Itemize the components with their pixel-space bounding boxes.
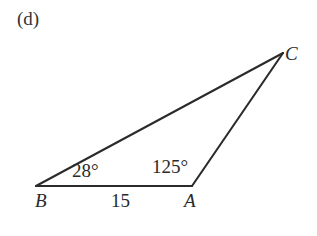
- angle-a-measure-label: 125°: [152, 157, 188, 176]
- angle-b-measure-label: 28°: [72, 161, 99, 180]
- vertex-label-c: C: [285, 44, 298, 63]
- vertex-label-b: B: [35, 191, 47, 210]
- side-ac-line: [192, 53, 283, 186]
- part-label: (d): [17, 9, 39, 28]
- triangle-figure: [0, 0, 317, 236]
- side-ab-length-label: 15: [111, 191, 130, 210]
- vertex-label-a: A: [184, 191, 196, 210]
